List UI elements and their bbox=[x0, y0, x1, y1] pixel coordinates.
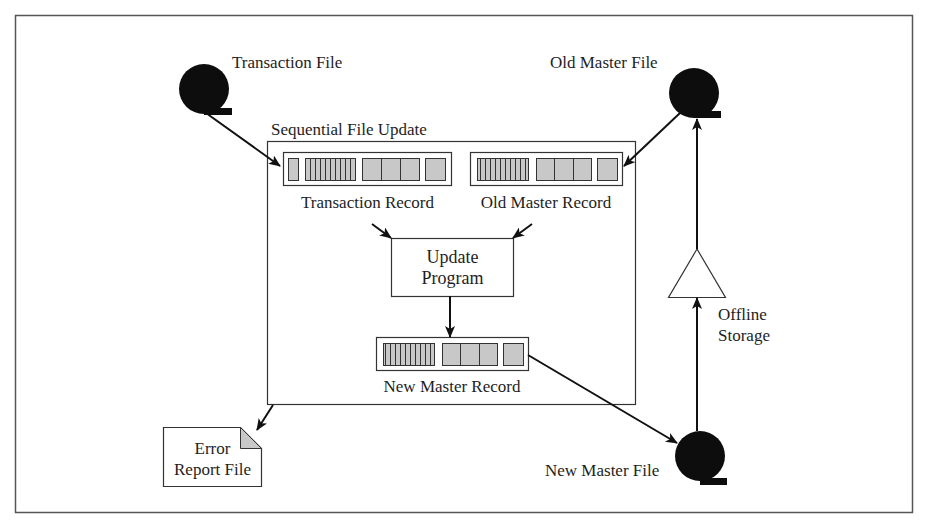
new-master-record-label: New Master Record bbox=[372, 377, 532, 397]
old-master-record-icon bbox=[471, 153, 623, 186]
error-report-line2: Report File bbox=[174, 459, 251, 480]
update-program-line1: Update bbox=[427, 247, 479, 268]
sequential-update-title: Sequential File Update bbox=[271, 120, 427, 140]
offline-storage-line2: Storage bbox=[718, 326, 770, 346]
new-master-record-icon bbox=[377, 338, 529, 371]
offline-storage-line1: Offline bbox=[718, 305, 767, 325]
old-master-record-label: Old Master Record bbox=[466, 193, 626, 213]
error-report-label: Error Report File bbox=[164, 432, 261, 486]
update-program-label: Update Program bbox=[392, 239, 513, 296]
transaction-record-label: Transaction Record bbox=[283, 193, 452, 213]
old-master-file-label: Old Master File bbox=[550, 53, 658, 73]
new-master-file-label: New Master File bbox=[545, 461, 659, 481]
transaction-file-label: Transaction File bbox=[232, 53, 342, 73]
transaction-record-icon bbox=[284, 153, 452, 186]
update-program-line2: Program bbox=[422, 268, 484, 289]
error-report-line1: Error bbox=[195, 438, 231, 459]
